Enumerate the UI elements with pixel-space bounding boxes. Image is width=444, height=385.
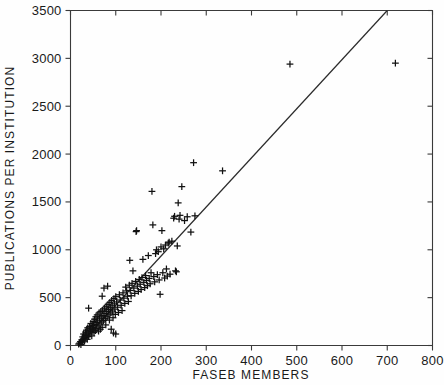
x-tick-label: 500 [286,353,308,368]
plot-canvas: 0100200300400500600700800 05001000150020… [0,0,444,385]
y-tick-label: 3000 [32,51,62,66]
x-axis-tick-labels: 0100200300400500600700800 [67,353,444,368]
y-axis-title: PUBLICATIONS PER INSTITUTION [3,66,17,291]
x-tick-label: 400 [240,353,262,368]
y-tick-label: 3500 [32,3,62,18]
y-tick-label: 500 [39,290,61,305]
x-tick-label: 100 [105,353,127,368]
x-tick-label: 800 [421,353,443,368]
x-tick-label: 700 [376,353,398,368]
x-axis-title: FASEB MEMBERS [193,368,310,382]
y-tick-label: 0 [54,338,61,353]
y-tick-label: 1500 [32,194,62,209]
x-tick-label: 300 [195,353,217,368]
x-tick-label: 0 [67,353,74,368]
plot-background [0,0,444,385]
x-tick-label: 600 [331,353,353,368]
scatter-plot-figure: 0100200300400500600700800 05001000150020… [0,0,444,385]
x-tick-label: 200 [150,353,172,368]
y-tick-label: 2000 [32,147,62,162]
y-tick-label: 1000 [32,242,62,257]
y-tick-label: 2500 [32,99,62,114]
